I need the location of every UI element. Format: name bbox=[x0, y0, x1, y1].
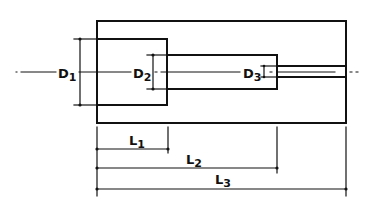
label-d1: D1 bbox=[58, 66, 76, 84]
stepped-bore-drawing: D1 D2 D3 L1 L2 L3 bbox=[0, 0, 380, 208]
label-d2: D2 bbox=[133, 66, 151, 84]
label-l2: L2 bbox=[186, 152, 202, 170]
label-d3: D3 bbox=[243, 66, 261, 84]
label-l3: L3 bbox=[215, 172, 231, 190]
d3-dimension bbox=[261, 66, 277, 77]
label-l1: L1 bbox=[129, 133, 145, 151]
